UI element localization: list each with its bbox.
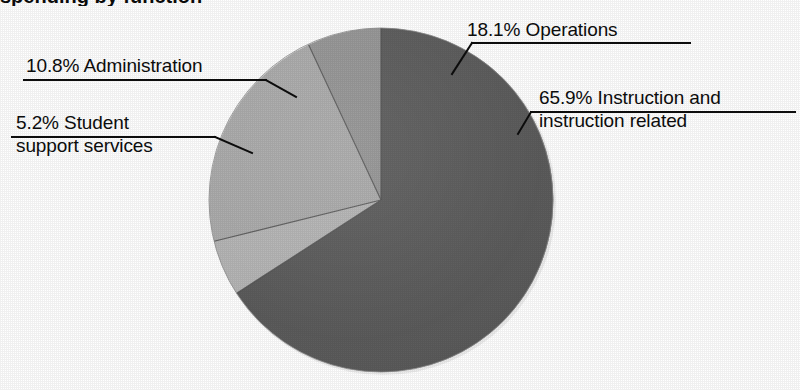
label-operations-text: 18.1% Operations xyxy=(467,19,618,40)
pie-chart-figure: spending by function xyxy=(0,0,800,390)
label-administration: 10.8% Administration xyxy=(26,54,203,77)
label-instruction: 65.9% Instruction and instruction relate… xyxy=(539,86,721,132)
label-student-support: 5.2% Student support services xyxy=(16,111,153,157)
label-operations: 18.1% Operations xyxy=(467,18,618,41)
label-instruction-line2: instruction related xyxy=(539,109,721,132)
label-administration-text: 10.8% Administration xyxy=(26,55,203,76)
label-instruction-line1: 65.9% Instruction and xyxy=(539,86,721,109)
label-student-support-line1: 5.2% Student xyxy=(16,111,153,134)
label-student-support-line2: support services xyxy=(16,134,153,157)
